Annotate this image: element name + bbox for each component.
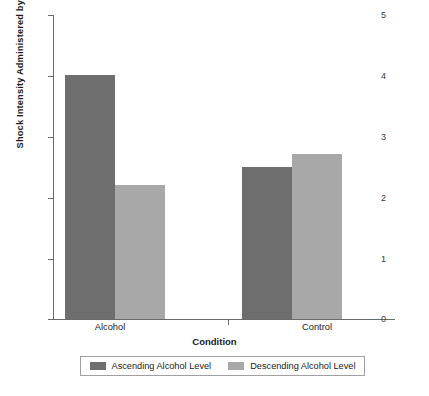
- bar-control-descending: [292, 154, 342, 319]
- bar-control-ascending: [242, 167, 292, 320]
- y-axis-line: [53, 15, 54, 320]
- y-tick-label-1: 1: [364, 255, 386, 264]
- legend-item-ascending: Ascending Alcohol Level: [90, 361, 212, 371]
- y-tick-label-5: 5: [364, 11, 386, 20]
- y-tick-5: [48, 15, 53, 16]
- x-axis-line: [53, 319, 395, 320]
- x-category-label-control: Control: [257, 322, 377, 333]
- y-tick-1: [48, 259, 53, 260]
- y-tick-label-3: 3: [364, 133, 386, 142]
- chart-legend: Ascending Alcohol Level Descending Alcoh…: [80, 356, 365, 376]
- plot-area: 5 4 3 2 1 0: [53, 15, 395, 320]
- y-tick-3: [48, 137, 53, 138]
- bar-chart-figure: Shock Intensity Administered by Particip…: [0, 0, 429, 396]
- legend-label-ascending: Ascending Alcohol Level: [112, 361, 212, 371]
- y-tick-0: [48, 319, 53, 320]
- legend-swatch-descending: [228, 362, 244, 370]
- x-category-label-alcohol: Alcohol: [50, 322, 170, 333]
- y-tick-label-4: 4: [364, 72, 386, 81]
- y-tick-2: [48, 198, 53, 199]
- y-tick-4: [48, 76, 53, 77]
- bar-alcohol-ascending: [65, 75, 115, 319]
- y-tick-label-2: 2: [364, 194, 386, 203]
- legend-swatch-ascending: [90, 362, 106, 370]
- y-axis-label: Shock Intensity Administered by Particip…: [12, 0, 28, 188]
- bar-alcohol-descending: [115, 185, 165, 319]
- x-axis-label: Condition: [0, 336, 429, 347]
- x-tick-center: [228, 320, 229, 325]
- legend-label-descending: Descending Alcohol Level: [250, 361, 355, 371]
- legend-item-descending: Descending Alcohol Level: [228, 361, 355, 371]
